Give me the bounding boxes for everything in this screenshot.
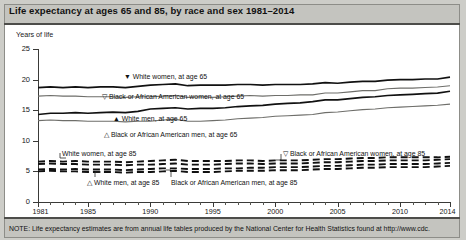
x-tick-minor xyxy=(225,202,226,205)
chart-footnote: NOTE: Life expectancy estimates are from… xyxy=(9,224,459,233)
x-tick-minor xyxy=(175,202,176,205)
x-tick-label: 2014 xyxy=(440,207,456,216)
x-tick-minor xyxy=(238,202,239,205)
x-tick-minor xyxy=(100,202,101,205)
x-tick-minor xyxy=(50,202,51,205)
x-tick-minor xyxy=(313,202,314,205)
x-tick-minor xyxy=(413,202,414,205)
x-tick-label: 1990 xyxy=(142,207,158,216)
x-tick-minor xyxy=(200,202,201,205)
x-tick-label: 2005 xyxy=(330,207,346,216)
x-tick-label: 2000 xyxy=(267,207,283,216)
x-tick-minor xyxy=(375,202,376,205)
x-tick-label: 2010 xyxy=(392,207,408,216)
x-tick-label: 1995 xyxy=(205,207,221,216)
x-tick-minor xyxy=(163,202,164,205)
x-tick-label: 1981 xyxy=(32,207,48,216)
x-tick-minor xyxy=(325,202,326,205)
x-tick-minor xyxy=(188,202,189,205)
x-tick-minor xyxy=(425,202,426,205)
x-tick-minor xyxy=(350,202,351,205)
x-tick-minor xyxy=(75,202,76,205)
leader-lines xyxy=(0,0,466,192)
chart-figure: Life expectancy at ages 65 and 85, by ra… xyxy=(0,0,466,240)
x-tick-minor xyxy=(263,202,264,205)
x-tick-minor xyxy=(63,202,64,205)
x-tick-minor xyxy=(300,202,301,205)
x-tick-minor xyxy=(113,202,114,205)
x-tick-label: 1985 xyxy=(80,207,96,216)
x-tick-minor xyxy=(125,202,126,205)
x-tick-minor xyxy=(138,202,139,205)
x-tick-minor xyxy=(438,202,439,205)
x-tick-minor xyxy=(288,202,289,205)
x-tick-minor xyxy=(363,202,364,205)
x-tick-minor xyxy=(388,202,389,205)
y-tick-label: 0 xyxy=(0,197,30,206)
x-tick-minor xyxy=(250,202,251,205)
